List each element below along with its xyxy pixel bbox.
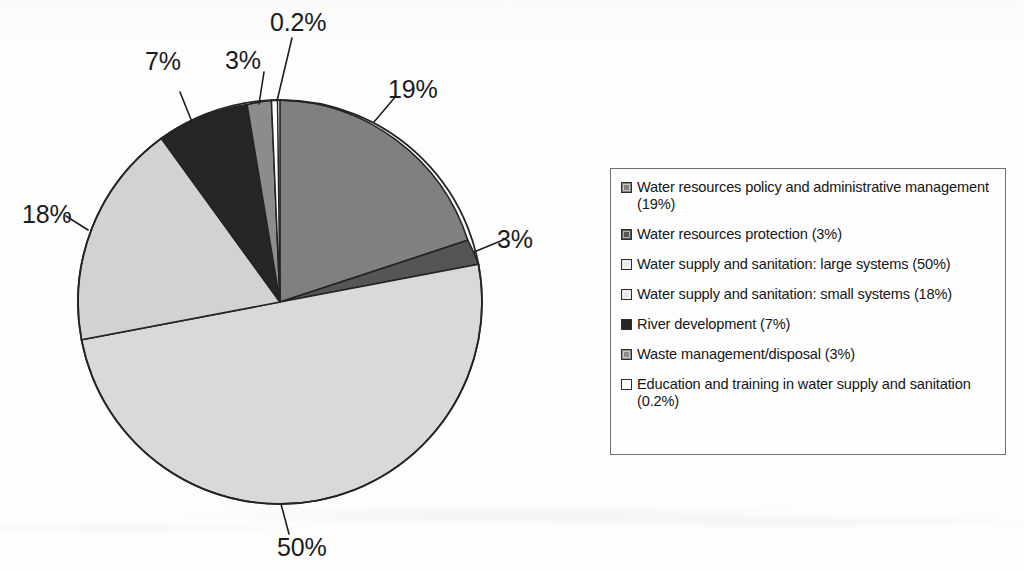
legend-swatch-icon xyxy=(621,379,632,390)
legend-item-label: Waste management/disposal (3%) xyxy=(637,346,855,363)
leader-line-7 xyxy=(180,92,192,122)
legend-item-large-systems[interactable]: Water supply and sanitation: large syste… xyxy=(621,256,995,273)
legend-item-label: Water supply and sanitation: small syste… xyxy=(637,286,952,303)
leader-line-02 xyxy=(277,38,292,101)
legend-swatch-icon xyxy=(621,319,632,330)
legend-item-waste-management[interactable]: Waste management/disposal (3%) xyxy=(621,346,995,363)
legend-item-water-resources-protection[interactable]: Water resources protection (3%) xyxy=(621,226,995,243)
legend-item-label: Education and training in water supply a… xyxy=(637,376,995,410)
leader-line-50 xyxy=(281,504,289,534)
pie-label-7: 7% xyxy=(145,47,181,76)
pie-label-3-top: 3% xyxy=(225,46,261,75)
pie-label-19: 19% xyxy=(388,75,437,104)
pie-chart xyxy=(0,0,620,571)
legend: Water resources policy and administrativ… xyxy=(610,168,1006,455)
legend-item-river-development[interactable]: River development (7%) xyxy=(621,316,995,333)
pie-label-02: 0.2% xyxy=(270,8,326,37)
legend-item-small-systems[interactable]: Water supply and sanitation: small syste… xyxy=(621,286,995,303)
legend-item-label: River development (7%) xyxy=(637,316,790,333)
leader-line-3-top xyxy=(259,72,264,104)
legend-swatch-icon xyxy=(621,229,632,240)
legend-swatch-icon xyxy=(621,259,632,270)
chart-canvas: 19% 3% 50% 18% 7% 3% 0.2% Water resource… xyxy=(0,0,1024,571)
legend-swatch-icon xyxy=(621,349,632,360)
legend-item-water-resources-policy[interactable]: Water resources policy and administrativ… xyxy=(621,179,995,213)
pie-label-3-right: 3% xyxy=(497,225,533,254)
legend-item-label: Water resources protection (3%) xyxy=(637,226,842,243)
legend-item-education-training[interactable]: Education and training in water supply a… xyxy=(621,376,995,410)
legend-swatch-icon xyxy=(621,289,632,300)
pie-label-50: 50% xyxy=(277,533,326,562)
legend-swatch-icon xyxy=(621,182,632,193)
legend-item-label: Water supply and sanitation: large syste… xyxy=(637,256,950,273)
pie-label-18: 18% xyxy=(22,200,71,229)
legend-item-label: Water resources policy and administrativ… xyxy=(637,179,995,213)
